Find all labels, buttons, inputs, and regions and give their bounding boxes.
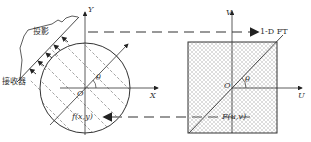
- right-angle-label: θ: [245, 76, 250, 84]
- detector-label: 接收器: [2, 78, 26, 86]
- u-axis-label: U: [298, 92, 305, 100]
- f-xy-label: f(x,y): [72, 113, 93, 121]
- y-axis-label: Y: [88, 6, 93, 14]
- left-origin-label: O: [77, 90, 84, 98]
- v-axis-label: V: [226, 9, 232, 17]
- left-angle-label: θ: [96, 74, 101, 82]
- fourier-slice-diagram: Y 投影 接收器 θ O X f(x,y) V 1-D FT θ O U F(u…: [0, 0, 311, 142]
- projection-label: 投影: [33, 28, 49, 36]
- diagram-graphics: [0, 0, 311, 142]
- F-uv-label: F(u,v): [222, 113, 246, 121]
- x-axis-label: X: [150, 92, 156, 100]
- 1d-ft-label: 1-D FT: [260, 28, 288, 36]
- right-origin-label: O: [224, 82, 231, 90]
